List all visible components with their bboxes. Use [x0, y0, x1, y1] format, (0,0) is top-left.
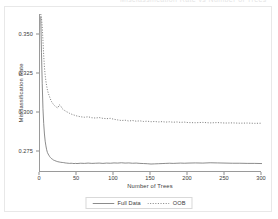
x-tick-label: 150: [145, 175, 154, 181]
y-tick-label: 0.275: [19, 148, 34, 154]
legend-swatch-icon: [148, 201, 170, 206]
chart-figure: Misclassification Rate vs Number of Tree…: [0, 0, 278, 219]
x-tick-label: 250: [219, 175, 228, 181]
legend-entry-full-data: Full Data: [92, 200, 140, 206]
x-tick-label: 0: [37, 175, 40, 181]
legend-label: Full Data: [117, 200, 140, 206]
x-tick-label: 100: [108, 175, 117, 181]
y-tick-label: 0.325: [19, 70, 34, 76]
y-tick-label: 0.300: [19, 109, 34, 115]
x-axis-title: Number of Trees: [39, 183, 261, 189]
legend-swatch-icon: [92, 201, 114, 206]
plot-area: [39, 14, 261, 172]
y-tick-label: 0.350: [19, 31, 34, 37]
legend-entry-oob: OOB: [148, 200, 186, 206]
series-line-oob: [41, 14, 262, 123]
y-axis-ticks: 0.2750.3000.3250.350: [0, 0, 39, 175]
legend-label: OOB: [173, 200, 186, 206]
clipped-title: Misclassification Rate vs Number of Tree…: [120, 0, 270, 4]
plot-svg: [40, 14, 262, 172]
x-tick-label: 50: [73, 175, 79, 181]
x-tick-label: 300: [256, 175, 265, 181]
chart-legend: Full DataOOB: [85, 197, 192, 209]
series-line-full-data: [41, 16, 262, 164]
x-tick-label: 200: [182, 175, 191, 181]
